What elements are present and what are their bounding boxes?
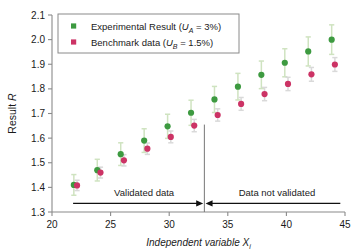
x-axis-tick-label: 35 [222,219,234,230]
data-point-benchmark [121,157,127,163]
data-point-experimental [305,48,311,54]
legend-uncertainty-value: = 3%) [193,21,221,32]
data-point-benchmark [261,91,267,97]
x-axis-tick-label: 45 [339,219,351,230]
validated-data-label: Validated data [114,187,175,198]
legend-uncertainty-value: = 1.5%) [178,37,214,48]
data-point-benchmark [285,81,291,87]
y-axis-tick-label: 1.8 [31,83,45,94]
y-axis-title-text: Result [6,101,18,134]
x-axis-tick-label: 40 [281,219,293,230]
data-point-benchmark [74,182,80,188]
data-point-experimental [188,110,194,116]
legend-marker-experimental [71,23,76,28]
data-point-experimental [329,37,335,43]
y-axis-title: Result R [6,93,18,134]
data-point-experimental [235,84,241,90]
data-point-benchmark [238,101,244,107]
data-point-benchmark [191,122,197,128]
legend-series-name: Benchmark data ( [91,37,167,48]
data-point-benchmark [97,170,103,176]
data-point-benchmark [144,146,150,152]
x-axis-title-text: Independent variable X [146,237,249,248]
data-point-benchmark [215,112,221,118]
y-axis-tick-label: 1.7 [31,108,45,119]
y-axis-tick-label: 1.4 [31,182,45,193]
x-axis-tick-label: 25 [105,219,117,230]
data-point-experimental [141,137,147,143]
x-axis-title: Independent variable Xi [146,237,251,250]
data-point-experimental [118,151,124,157]
data-not-validated-arrow-head [206,200,213,206]
y-axis-title-symbol: R [6,93,18,101]
x-axis-tick-label: 30 [164,219,176,230]
y-axis-tick-label: 1.5 [31,157,45,168]
data-point-experimental [258,72,264,78]
data-not-validated-label: Data not validated [239,187,316,198]
legend-series-name: Experimental Result ( [91,21,183,32]
y-axis-tick-label: 2.1 [31,10,45,21]
y-axis-tick-label: 1.3 [31,207,45,218]
chart-figure: 1.31.41.51.61.71.81.92.02.1202530354045R… [0,0,358,251]
data-point-benchmark [332,61,338,67]
validated-data-arrow-head [196,200,203,206]
y-axis-tick-label: 1.9 [31,59,45,70]
scatter-plot-svg: 1.31.41.51.61.71.81.92.02.1202530354045R… [0,0,358,251]
data-point-experimental [282,60,288,66]
data-point-experimental [211,96,217,102]
y-axis-tick-label: 1.6 [31,133,45,144]
x-axis-tick-label: 20 [46,219,58,230]
data-point-experimental [165,123,171,129]
legend-marker-benchmark [71,39,76,44]
y-axis-tick-label: 2.0 [31,34,45,45]
x-axis-title-subscript: i [249,243,251,250]
data-point-benchmark [308,71,314,77]
data-point-benchmark [168,134,174,140]
